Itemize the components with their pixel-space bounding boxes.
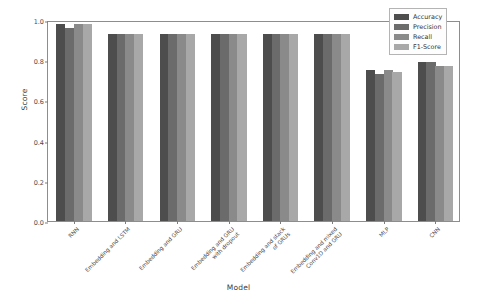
bar — [56, 24, 65, 221]
bar — [168, 34, 177, 221]
y-tick-label: 0.8 — [34, 58, 44, 66]
bar — [117, 34, 126, 221]
y-tick-mark — [45, 62, 48, 63]
y-tick-label: 0.4 — [34, 139, 44, 147]
bar — [341, 34, 350, 221]
bar — [272, 34, 281, 221]
y-tick-label: 0.0 — [34, 219, 44, 227]
x-tick-label: CNN — [359, 226, 441, 307]
bar — [65, 28, 74, 221]
x-tick-mark — [384, 221, 385, 224]
bar — [237, 34, 246, 221]
y-axis-label: Score — [20, 70, 29, 130]
bar — [323, 34, 332, 221]
bar — [160, 34, 169, 221]
bar — [366, 70, 375, 221]
legend-item: Precision — [394, 22, 442, 32]
bar — [108, 34, 117, 221]
legend-label: Recall — [413, 33, 432, 41]
y-tick-label: 0.6 — [34, 98, 44, 106]
x-tick-mark — [177, 221, 178, 224]
legend-label: Precision — [413, 23, 442, 31]
y-tick-mark — [45, 102, 48, 103]
x-axis-label: Model — [0, 283, 477, 292]
y-tick-mark — [45, 22, 48, 23]
legend-item: F1-Score — [394, 42, 442, 52]
legend-swatch — [394, 34, 409, 40]
bar — [134, 34, 143, 221]
bar — [83, 24, 92, 221]
bar-chart-figure: Score 0.00.20.40.60.81.0 RNNEmbedding an… — [0, 0, 477, 307]
bar — [186, 34, 195, 221]
legend-swatch — [394, 14, 409, 20]
bar — [289, 34, 298, 221]
bar — [392, 72, 401, 221]
x-tick-label: RNN — [0, 226, 80, 307]
x-tick-mark — [229, 221, 230, 224]
bar — [418, 62, 427, 221]
bar — [211, 34, 220, 221]
legend-label: F1-Score — [413, 43, 441, 51]
bar — [426, 62, 435, 221]
y-tick-label: 1.0 — [34, 18, 44, 26]
bar — [314, 34, 323, 221]
x-tick-mark — [125, 221, 126, 224]
legend-swatch — [394, 24, 409, 30]
x-tick-mark — [280, 221, 281, 224]
bar — [220, 34, 229, 221]
x-tick-mark — [74, 221, 75, 224]
bar — [444, 66, 453, 221]
y-tick-mark — [45, 182, 48, 183]
x-tick-mark — [435, 221, 436, 224]
legend-swatch — [394, 44, 409, 50]
bar — [375, 74, 384, 221]
x-tick-mark — [332, 221, 333, 224]
chart-legend: AccuracyPrecisionRecallF1-Score — [389, 8, 447, 55]
legend-label: Accuracy — [413, 13, 442, 21]
y-tick-mark — [45, 142, 48, 143]
legend-item: Recall — [394, 32, 442, 42]
legend-item: Accuracy — [394, 12, 442, 22]
y-tick-mark — [45, 223, 48, 224]
bar — [263, 34, 272, 221]
y-tick-label: 0.2 — [34, 179, 44, 187]
